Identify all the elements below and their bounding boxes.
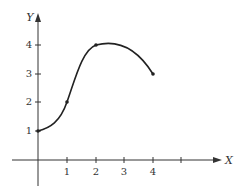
x-axis-label: X: [224, 154, 234, 167]
y-tick-label: 3: [26, 68, 32, 79]
y-tick-label: 4: [26, 39, 32, 50]
y-axis-arrow-icon: [35, 13, 41, 22]
function-curve: [38, 43, 153, 131]
x-tick-label: 3: [121, 166, 127, 177]
y-axis-label: Y: [26, 11, 35, 24]
data-point: [65, 100, 69, 104]
data-point: [151, 72, 155, 76]
data-point: [94, 43, 98, 47]
x-tick-label: 2: [93, 166, 99, 177]
function-graph: 1 2 3 4 1 2 3 4 X Y: [0, 0, 244, 191]
x-tick-label: 4: [150, 166, 156, 177]
y-tick-label: 2: [26, 96, 32, 107]
x-axis-arrow-icon: [213, 157, 222, 163]
x-tick-label: 1: [64, 166, 70, 177]
y-tick-label: 1: [26, 125, 32, 136]
data-point: [36, 129, 40, 133]
